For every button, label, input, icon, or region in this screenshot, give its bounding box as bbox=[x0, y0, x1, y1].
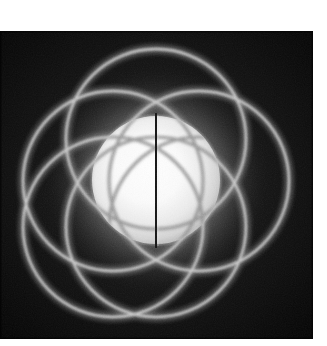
photographic-plate bbox=[0, 31, 313, 339]
geometry-illustration bbox=[0, 31, 313, 339]
film-grain-overlay-dark bbox=[0, 31, 313, 339]
image-canvas: Seed of Life Light Pattern Dark grainy p… bbox=[0, 0, 327, 346]
